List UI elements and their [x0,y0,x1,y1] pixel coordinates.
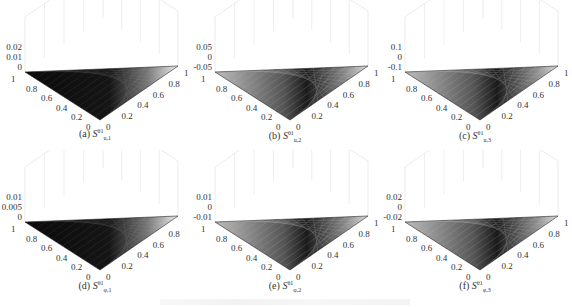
svg-text:0.01: 0.01 [6,52,22,62]
svg-text:1: 1 [374,68,379,78]
svg-text:0.6: 0.6 [343,90,355,100]
svg-text:0.02: 0.02 [386,192,402,202]
caption-a: (a) Sθ1u,1 [0,128,190,141]
svg-text:0.6: 0.6 [231,93,243,103]
surface-plot-e: 0.010-0.0110.80.60.40.2000.20.40.60.81 [190,150,380,300]
svg-text:0.8: 0.8 [216,234,228,244]
z-axis-ticks: 0.020-0.02 [383,192,402,222]
svg-text:0.2: 0.2 [451,112,462,122]
svg-text:0.4: 0.4 [436,103,448,113]
svg-text:0.6: 0.6 [153,90,165,100]
svg-text:0.8: 0.8 [548,79,560,89]
caption-label: (b) [269,130,281,141]
svg-text:1: 1 [201,74,206,84]
z-axis-ticks: 0.010-0.01 [193,192,212,222]
caption-label: (d) [78,280,90,291]
svg-text:0: 0 [398,202,403,212]
svg-text:1: 1 [564,68,569,78]
svg-text:0.4: 0.4 [246,103,258,113]
svg-text:1: 1 [11,224,16,234]
svg-text:0.6: 0.6 [41,243,53,253]
svg-text:0: 0 [18,212,23,222]
svg-text:0: 0 [208,202,213,212]
caption-d: (d) Sθ1φ,1 [0,280,190,293]
z-axis-ticks: 0.010.0050 [2,192,23,222]
svg-text:0.8: 0.8 [26,84,38,94]
svg-text:0.2: 0.2 [122,261,133,271]
svg-text:1: 1 [374,218,379,228]
svg-text:0.8: 0.8 [358,229,370,239]
svg-text:0: 0 [18,62,23,72]
svg-text:0.4: 0.4 [517,250,529,260]
svg-text:1: 1 [184,68,189,78]
z-axis-ticks: 0.050-0.05 [193,42,212,72]
z-axis-ticks: 0.10-0.1 [388,42,403,72]
svg-text:0.4: 0.4 [137,100,149,110]
svg-text:0.4: 0.4 [517,100,529,110]
svg-text:0.8: 0.8 [168,79,180,89]
svg-text:0.6: 0.6 [231,243,243,253]
svg-text:-0.05: -0.05 [193,62,212,72]
axes-box [25,150,178,222]
svg-text:1: 1 [391,74,396,84]
svg-text:0.2: 0.2 [122,111,133,121]
svg-text:0.8: 0.8 [358,79,370,89]
caption-sub: φ,1 [104,287,112,293]
svg-text:-0.1: -0.1 [388,62,402,72]
plot-f: 0.020-0.0210.80.60.40.2000.20.40.60.81 [380,150,570,300]
caption-label: (f) [459,280,469,291]
svg-text:0.6: 0.6 [533,240,545,250]
svg-text:0.6: 0.6 [41,93,53,103]
figure-caption-faded [160,299,410,305]
caption-label: (e) [269,280,280,291]
axes-box [25,0,178,72]
svg-text:0.8: 0.8 [406,234,418,244]
svg-text:0.4: 0.4 [137,250,149,260]
axes-box [405,150,558,222]
svg-text:0.01: 0.01 [6,192,22,202]
svg-text:0.4: 0.4 [327,250,339,260]
svg-text:0.6: 0.6 [421,243,433,253]
svg-text:0.4: 0.4 [246,253,258,263]
caption-sub: φ,2 [293,287,301,293]
plot-b: 0.050-0.0510.80.60.40.2000.20.40.60.81 [190,0,380,150]
svg-text:0.4: 0.4 [56,103,68,113]
caption-sub: u,2 [294,137,302,143]
svg-text:0.2: 0.2 [71,112,82,122]
svg-text:0.2: 0.2 [312,261,323,271]
svg-text:-0.01: -0.01 [193,212,212,222]
surface-plot-d: 0.010.005010.80.60.40.2000.20.40.60.8 [0,150,190,300]
svg-text:0.4: 0.4 [436,253,448,263]
caption-f: (f) Sθ1φ,3 [380,280,570,293]
plot-e: 0.010-0.0110.80.60.40.2000.20.40.60.81 [190,150,380,300]
caption-sup: θ1 [288,130,294,136]
svg-text:0.2: 0.2 [502,261,513,271]
axes-box [215,150,368,222]
svg-text:0.02: 0.02 [6,42,22,52]
axes-box [405,0,558,72]
svg-text:0.4: 0.4 [56,253,68,263]
svg-text:0.8: 0.8 [548,229,560,239]
svg-text:0.2: 0.2 [312,111,323,121]
svg-text:0.2: 0.2 [451,262,462,272]
svg-text:0.6: 0.6 [153,240,165,250]
svg-text:0.01: 0.01 [196,192,212,202]
svg-text:0.8: 0.8 [216,84,228,94]
svg-text:1: 1 [564,218,569,228]
svg-text:0.2: 0.2 [502,111,513,121]
caption-e: (e) Sθ1φ,2 [190,280,380,293]
axes-box [215,0,368,72]
svg-text:0.2: 0.2 [261,112,272,122]
caption-sub: u,1 [103,135,111,141]
svg-text:0.2: 0.2 [261,262,272,272]
caption-sub: u,3 [483,137,491,143]
caption-sup: θ1 [478,130,484,136]
z-axis-ticks: 0.020.010 [6,42,22,72]
surface-plot-c: 0.10-0.110.80.60.40.2000.20.40.60.81 [380,0,570,150]
svg-text:-0.02: -0.02 [383,212,402,222]
svg-text:0.2: 0.2 [71,262,82,272]
caption-label: (c) [459,130,470,141]
svg-text:0.8: 0.8 [406,84,418,94]
svg-text:0.05: 0.05 [196,42,212,52]
svg-text:0: 0 [208,52,213,62]
